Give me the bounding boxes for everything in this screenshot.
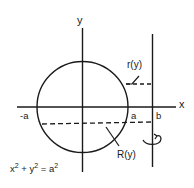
inner-radius-label: r(y) <box>127 59 142 70</box>
inner-radius-leader <box>126 76 139 84</box>
x-axis-label: x <box>179 98 185 110</box>
y-axis-label: y <box>77 14 83 26</box>
outer-radius-dashed <box>42 122 152 124</box>
rotation-arrowhead-icon <box>154 134 157 139</box>
neg-a-label: -a <box>20 110 29 121</box>
b-label: b <box>156 110 161 121</box>
revolution-diagram: y x -a a b r(y) R(y) x2 + y2 = a2 <box>0 0 194 188</box>
circle-equation: x2 + y2 = a2 <box>10 162 58 174</box>
a-label: a <box>131 110 137 121</box>
outer-radius-label: R(y) <box>117 149 136 160</box>
